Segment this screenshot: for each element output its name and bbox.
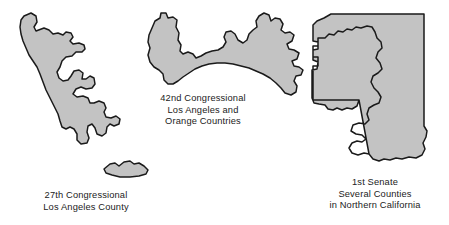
42nd-combined-outline [148, 13, 303, 95]
27th-offshore-island [104, 161, 148, 177]
district-map-figure: 27th Congressional Los Angeles County 42… [0, 0, 449, 225]
caption-42nd-congressional: 42nd Congressional Los Angeles and Orang… [133, 93, 273, 128]
42nd-congressional-district-shape [148, 13, 303, 95]
1st-senate-outer-boundary-with-hole [312, 14, 427, 161]
caption-27th-congressional: 27th Congressional Los Angeles County [6, 190, 166, 213]
caption-line: Los Angeles and [133, 105, 273, 117]
caption-line: 27th Congressional [6, 190, 166, 202]
27th-mainland-strip [20, 13, 120, 144]
caption-line: Several Counties [305, 189, 445, 201]
caption-1st-senate: 1st Senate Several Counties in Northern … [305, 177, 445, 212]
27th-congressional-district-shape [20, 13, 148, 177]
caption-line: Orange Countries [133, 116, 273, 128]
1st-senate-district-shape [312, 14, 427, 161]
caption-line: 42nd Congressional [133, 93, 273, 105]
caption-line: Los Angeles County [6, 202, 166, 214]
caption-line: in Northern California [305, 200, 445, 212]
caption-line: 1st Senate [305, 177, 445, 189]
